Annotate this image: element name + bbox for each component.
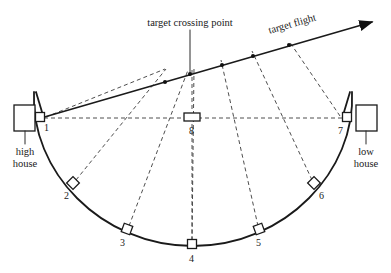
flight-marker-dot — [287, 43, 291, 47]
station-marker-8[interactable] — [184, 113, 200, 121]
target-crossing-point-label: target crossing point — [147, 17, 233, 28]
station-label-5: 5 — [256, 237, 261, 248]
sightline-1-to-4 — [129, 70, 188, 226]
high-house-label-line1: high — [16, 146, 35, 157]
sightline-1-to-6 — [221, 60, 258, 226]
station-label-1: 1 — [44, 122, 49, 133]
station-marker-7[interactable] — [343, 113, 352, 122]
station-marker-1[interactable] — [36, 113, 45, 122]
low-house-box — [356, 105, 377, 131]
flight-marker-dot — [220, 63, 224, 67]
high-house-arc-tick — [36, 92, 42, 112]
flight-marker-dot — [163, 80, 167, 84]
target-flight-label: target flight — [267, 12, 317, 36]
target-flight-line — [41, 22, 372, 118]
skeet-field-diagram: 1 2 3 4 5 6 7 8 target crossing point ta… — [0, 0, 391, 273]
station-marker-4[interactable] — [188, 240, 197, 249]
station-marker-5[interactable] — [253, 223, 265, 235]
station-label-7: 7 — [338, 125, 343, 136]
station-label-2: 2 — [64, 190, 69, 201]
flight-marker-dot — [251, 54, 255, 58]
sightline-1-to-7 — [252, 51, 312, 180]
low-house-label-line2: house — [354, 158, 379, 169]
target-flight-path-group — [41, 22, 372, 118]
station-label-4: 4 — [189, 253, 194, 264]
station-marker-3[interactable] — [121, 223, 133, 235]
station-label-8: 8 — [189, 125, 194, 136]
low-house-arc-tick — [344, 92, 350, 112]
diagram-canvas: 1 2 3 4 5 6 7 8 target crossing point ta… — [0, 0, 391, 273]
low-house-label-line1: low — [358, 146, 374, 157]
sightline-1-to-2 — [46, 69, 165, 117]
station-label-6: 6 — [319, 190, 324, 201]
station-label-3: 3 — [120, 237, 125, 248]
high-house-box — [14, 105, 35, 131]
high-house-label-line2: house — [13, 158, 38, 169]
sightline-1-to-8 — [289, 41, 340, 116]
